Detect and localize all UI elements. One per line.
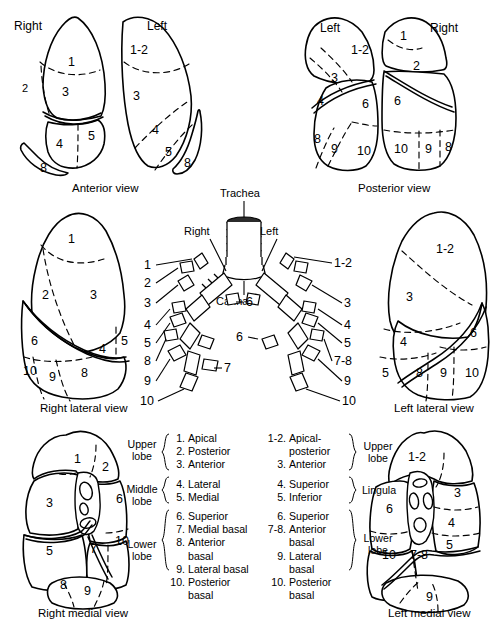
tree-right-label: Right [184,225,210,237]
legend-item-cont: posterior [262,445,348,458]
legend-left-lung-list: 1-2. Apical- posterior 3. Anterior 4. Su… [262,432,348,602]
right-lateral-seg-2: 2 [42,288,49,302]
anterior-left-seg-8: 8 [184,156,191,170]
left-main-bronchus [256,273,308,375]
posterior-left-seg-6: 6 [362,97,369,111]
tree-right-num-1: 1 [144,258,151,272]
tree-right-num-4: 4 [144,318,151,332]
anterior-right-seg-4: 4 [56,137,63,151]
legend-item: 2. Posterior [170,445,256,458]
legend-right-lower-lobe-label: Lower lobe [120,538,164,562]
tree-left-num-5: 5 [344,336,351,350]
left-lateral-seg-9: 9 [440,366,447,380]
tree-right-leader [210,239,226,271]
tree-left-num-9: 9 [344,374,351,388]
right-lateral-seg-1: 1 [68,232,75,246]
left-lateral-seg-4: 4 [400,335,407,349]
left-lateral-seg-10: 10 [465,366,479,380]
left-lateral-seg-8: 8 [416,366,423,380]
legend-item: 3. Anterior [262,458,348,471]
right-medial-seg-2: 2 [102,460,109,474]
left-lateral-view-caption: Left lateral view [394,402,475,414]
left-medial-view-caption: Left medial view [388,607,471,619]
right-lateral-seg-8: 8 [81,366,88,380]
posterior-left-seg-9: 9 [331,142,338,156]
tree-left-label: Left [260,225,278,237]
right-medial-seg-3: 3 [46,496,53,510]
legend-item: 9. Lateral [262,550,348,563]
right-lateral-seg-3: 3 [90,288,97,302]
legend-right-upper-lobe-label: Upper lobe [120,438,164,462]
legend-item: 7-8. Anterior [262,523,348,536]
legend-item: 7. Medial basal [170,523,256,536]
tree-left-num-10: 10 [342,394,356,408]
right-medial-seg-5: 5 [46,544,53,558]
tree-right-num-5: 5 [144,336,151,350]
legend-item: 10. Posterior [262,576,348,589]
legend-item: 6. Superior [262,510,348,523]
legend-item: 1. Apical [170,432,256,445]
tree-left-num-6: 6 [236,330,243,344]
posterior-right-seg-9: 9 [425,142,432,156]
tree-left-leader [262,239,277,271]
anterior-view-figure: Right 1 2 3 4 5 8 Left 1-2 3 4 5 8 Anter… [0,0,250,200]
legend-item: 3. Anterior [170,458,256,471]
left-lateral-seg-6: 6 [470,326,477,340]
tree-right-num-3: 3 [144,296,151,310]
trachea-ring-7 [223,265,265,280]
anterior-right-label: Right [14,19,43,33]
right-lateral-seg-5: 5 [121,334,128,348]
legend-item: 5. Medial [170,491,256,504]
legend-item-cont: basal [262,536,348,549]
legend-item: 6. Superior [170,510,256,523]
right-lateral-seg-10: 10 [23,364,37,378]
right-medial-view-caption: Right medial view [38,607,129,619]
tree-left-num-1-2: 1-2 [334,256,352,270]
tree-right-num-2: 2 [144,276,151,290]
posterior-left-seg-1-2: 1-2 [351,43,369,57]
posterior-view-figure: Left 1-2 3 4 6 8 9 10 Right 1 2 6 10 9 8 [248,0,496,200]
legend-item: 9. Lateral basal [170,563,256,576]
legend-item-cont: basal [170,589,256,602]
posterior-view-caption: Posterior view [358,182,431,194]
tree-right-num-10: 10 [140,394,154,408]
right-lateral-seg-4: 4 [99,342,106,356]
tree-left-num-7-8: 7-8 [334,354,352,368]
legend-item: 4. Superior [262,478,348,491]
legend-left-lower-lobe-label: Lower lobe [358,532,398,556]
left-lateral-seg-3: 3 [406,290,413,304]
legend-right-braces [346,432,358,600]
right-medial-seg-8: 8 [60,578,67,592]
tree-right-num-7: 7 [224,361,231,375]
legend-item-cont: basal [170,550,256,563]
left-medial-seg-4: 4 [448,516,455,530]
posterior-left-seg-10: 10 [357,144,371,158]
left-medial-seg-1-2: 1-2 [408,450,426,464]
anterior-right-seg-3: 3 [62,85,69,99]
anterior-left-label: Left [147,19,168,33]
legend-item-cont: basal [262,563,348,576]
anterior-right-seg-8: 8 [40,161,47,175]
left-lateral-seg-5: 5 [382,366,389,380]
legend-item: 5. Inferior [262,491,348,504]
right-lateral-seg-6: 6 [31,334,38,348]
posterior-right-seg-2: 2 [413,59,420,73]
tree-left-num-3: 3 [344,296,351,310]
bronchial-tree-figure: Trachea Carina Right Left [140,183,360,418]
left-medial-seg-6: 6 [386,502,393,516]
legend-right-middle-lobe-label: Middle lobe [120,483,164,507]
anterior-view-caption: Anterior view [72,182,139,194]
posterior-right-seg-10: 10 [394,142,408,156]
left-lateral-view-figure: 1-2 3 4 5 6 8 9 10 Left lateral view [372,205,496,420]
right-tree-inner-labels: 6 7 [214,295,253,375]
posterior-right-seg-8: 8 [445,140,452,154]
right-medial-seg-7: 7 [90,542,97,556]
right-lateral-seg-9: 9 [49,370,56,384]
anterior-left-seg-1-2: 1-2 [130,43,148,57]
posterior-right-label: Right [430,21,459,35]
right-medial-seg-1: 1 [74,452,81,466]
posterior-right-seg-6: 6 [394,94,401,108]
right-medial-seg-9: 9 [84,584,91,598]
legend-right-lung-list: 1. Apical 2. Posterior 3. Anterior 4. La… [170,432,256,602]
legend-item: 10. Posterior [170,576,256,589]
